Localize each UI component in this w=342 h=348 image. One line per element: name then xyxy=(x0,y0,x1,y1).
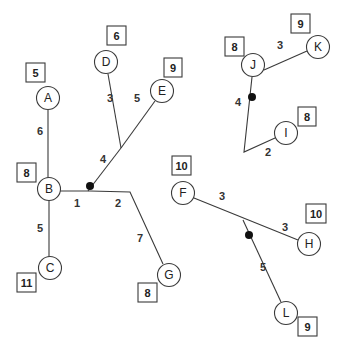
svg-text:A: A xyxy=(44,91,52,105)
svg-text:8: 8 xyxy=(144,287,150,299)
weight-box-I: 8 xyxy=(298,107,316,126)
node-G: G xyxy=(158,264,181,287)
svg-text:8: 8 xyxy=(231,41,237,53)
edge-branch-D xyxy=(108,74,121,148)
edge-J-K xyxy=(264,51,307,70)
edge-J-corner-I xyxy=(244,77,275,152)
edge-weight-D: 3 xyxy=(107,92,113,104)
node-L: L xyxy=(275,302,298,325)
svg-text:10: 10 xyxy=(175,160,187,172)
edge-weight-L: 5 xyxy=(260,261,266,273)
edge-weight-corner-I: 2 xyxy=(265,146,271,158)
steiner-point-2 xyxy=(248,93,256,101)
weight-box-H: 10 xyxy=(306,204,326,223)
edge-weight-7: 7 xyxy=(137,232,143,244)
edge-weight-2: 2 xyxy=(115,197,121,209)
node-C: C xyxy=(39,257,62,280)
svg-text:8: 8 xyxy=(23,167,29,179)
svg-text:F: F xyxy=(179,186,186,200)
steiner-point-1 xyxy=(86,182,94,190)
steiner-tree-diagram: 6 5 1 2 7 4 3 5 3 4 2 3 3 5 A B C D E G … xyxy=(0,0,342,348)
edge-weight-A-B: 6 xyxy=(37,125,43,137)
svg-text:E: E xyxy=(158,84,166,98)
weight-box-G: 8 xyxy=(138,283,157,302)
svg-text:10: 10 xyxy=(310,208,322,220)
node-K: K xyxy=(307,36,330,59)
edge-weight-H: 3 xyxy=(282,221,288,233)
svg-text:8: 8 xyxy=(304,111,310,123)
svg-text:I: I xyxy=(284,126,287,140)
edge-weight-E: 5 xyxy=(134,92,140,104)
edge-weight-J-corner: 4 xyxy=(235,96,242,108)
svg-text:6: 6 xyxy=(113,30,119,42)
node-H: H xyxy=(298,233,321,256)
svg-text:K: K xyxy=(314,40,322,54)
svg-text:L: L xyxy=(283,306,290,320)
weight-box-J: 8 xyxy=(225,37,244,56)
weight-box-L: 9 xyxy=(298,317,317,336)
svg-text:9: 9 xyxy=(304,321,310,333)
edge-weight-J-K: 3 xyxy=(277,39,283,51)
svg-text:C: C xyxy=(46,261,55,275)
edge-branch-E xyxy=(121,101,155,148)
weight-box-K: 9 xyxy=(291,14,310,33)
edge-weight-4: 4 xyxy=(100,153,107,165)
weight-box-E: 9 xyxy=(164,58,182,77)
weight-box-C: 11 xyxy=(17,273,36,292)
weight-box-B: 8 xyxy=(17,163,36,182)
node-I: I xyxy=(275,122,298,145)
node-E: E xyxy=(151,80,174,103)
svg-text:5: 5 xyxy=(32,67,38,79)
node-B: B xyxy=(38,178,61,201)
edge-weight-1: 1 xyxy=(74,197,80,209)
svg-text:11: 11 xyxy=(21,277,33,289)
svg-text:9: 9 xyxy=(297,18,303,30)
weight-box-F: 10 xyxy=(172,156,191,175)
node-A: A xyxy=(37,87,60,110)
steiner-point-3 xyxy=(245,231,253,239)
svg-text:B: B xyxy=(45,182,53,196)
svg-text:D: D xyxy=(102,55,111,69)
svg-text:H: H xyxy=(305,237,314,251)
edge-weight-B-C: 5 xyxy=(37,222,43,234)
svg-text:9: 9 xyxy=(170,62,176,74)
edge-weight-F: 3 xyxy=(219,190,225,202)
node-D: D xyxy=(95,51,118,74)
svg-text:G: G xyxy=(164,268,173,282)
node-F: F xyxy=(172,182,195,205)
node-J: J xyxy=(242,54,265,77)
svg-text:J: J xyxy=(250,58,256,72)
weight-box-D: 6 xyxy=(107,26,126,45)
weight-box-A: 5 xyxy=(26,63,45,82)
